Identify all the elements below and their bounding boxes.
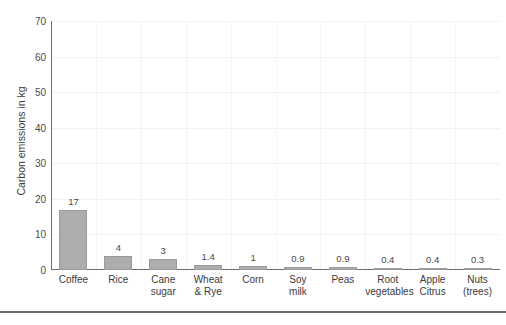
bar[interactable] [464, 268, 492, 270]
category-label-line1: Root [377, 274, 398, 285]
y-axis-tick-label: 40 [6, 122, 46, 133]
bars-layer: 17431.410.90.90.40.40.3 [51, 21, 500, 270]
bar-column[interactable]: 1 [231, 21, 276, 270]
x-axis-category-label: Rice [96, 274, 141, 286]
y-axis-tick-labels: 010203040506070 [0, 0, 46, 325]
bar-value-label: 4 [96, 242, 141, 253]
bar[interactable] [104, 256, 132, 270]
bar-value-label: 1.4 [186, 251, 231, 262]
x-axis-category-label: Soymilk [276, 274, 321, 298]
x-axis-category-label: Coffee [51, 274, 96, 286]
category-label-line1: Wheat [194, 274, 223, 285]
bar[interactable] [374, 268, 402, 270]
category-label-line1: Rice [108, 274, 128, 285]
category-label-line1: Apple [420, 274, 446, 285]
category-label-line1: Corn [242, 274, 264, 285]
category-label-line2: Citrus [410, 286, 455, 298]
bar-column[interactable]: 1.4 [186, 21, 231, 270]
y-axis-tick-label: 70 [6, 16, 46, 27]
y-axis-tick-label: 30 [6, 158, 46, 169]
bar-column[interactable]: 0.9 [276, 21, 321, 270]
y-axis-tick-label: 20 [6, 193, 46, 204]
category-label-line1: Soy [289, 274, 306, 285]
category-label-line1: Nuts [467, 274, 488, 285]
bar-value-label: 0.3 [455, 254, 500, 265]
x-axis-category-label: Canesugar [141, 274, 186, 298]
bar-column[interactable]: 0.3 [455, 21, 500, 270]
x-axis-category-label: Rootvegetables [365, 274, 410, 298]
y-axis-tick-label: 60 [6, 51, 46, 62]
category-label-line1: Coffee [59, 274, 88, 285]
x-axis-category-label: Corn [231, 274, 276, 286]
x-axis-category-label: Peas [320, 274, 365, 286]
bar-column[interactable]: 17 [51, 21, 96, 270]
bar-value-label: 17 [51, 196, 96, 207]
x-axis-category-label: Wheat& Rye [186, 274, 231, 298]
y-axis-tick-label: 50 [6, 87, 46, 98]
x-axis-category-labels: CoffeeRiceCanesugarWheat& RyeCornSoymilk… [51, 274, 500, 314]
bar-value-label: 3 [141, 245, 186, 256]
bar-column[interactable]: 3 [141, 21, 186, 270]
category-label-line2: & Rye [186, 286, 231, 298]
bar-value-label: 1 [231, 252, 276, 263]
bar[interactable] [284, 267, 312, 270]
bottom-separator-rule [0, 311, 506, 313]
bar[interactable] [194, 265, 222, 270]
bar-column[interactable]: 0.4 [410, 21, 455, 270]
bar-column[interactable]: 0.4 [365, 21, 410, 270]
category-label-line1: Peas [331, 274, 354, 285]
bar-value-label: 0.9 [320, 253, 365, 264]
bar[interactable] [239, 266, 267, 270]
chart-figure: Carbon emissions in kg 010203040506070 1… [0, 0, 506, 325]
bar-value-label: 0.4 [365, 254, 410, 265]
bar[interactable] [149, 259, 177, 270]
bar[interactable] [419, 268, 447, 270]
y-axis-tick-label: 0 [6, 265, 46, 276]
bar-value-label: 0.4 [410, 254, 455, 265]
bar-column[interactable]: 4 [96, 21, 141, 270]
x-axis-category-label: Nuts(trees) [455, 274, 500, 298]
bar[interactable] [59, 210, 87, 270]
bar[interactable] [329, 267, 357, 270]
category-label-line1: Cane [151, 274, 175, 285]
category-label-line2: (trees) [455, 286, 500, 298]
bar-value-label: 0.9 [276, 253, 321, 264]
category-label-line2: milk [276, 286, 321, 298]
y-axis-tick-label: 10 [6, 229, 46, 240]
category-label-line2: sugar [141, 286, 186, 298]
category-label-line2: vegetables [365, 286, 410, 298]
bar-column[interactable]: 0.9 [320, 21, 365, 270]
x-axis-category-label: AppleCitrus [410, 274, 455, 298]
